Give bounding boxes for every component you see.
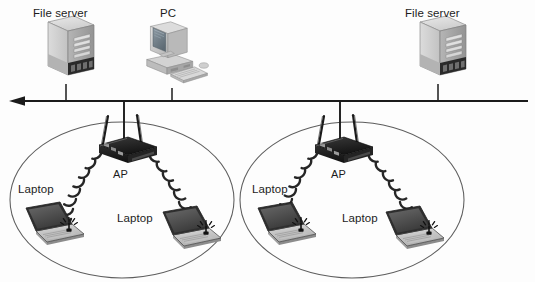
file-server-left-icon	[48, 16, 94, 75]
backbone-arrow-icon	[9, 96, 25, 106]
diagram-vector-layer	[0, 0, 535, 282]
label-pc: PC	[160, 8, 176, 20]
label-laptop-right-cell-2: Laptop	[342, 213, 378, 225]
label-laptop-right-cell-1: Laptop	[252, 184, 288, 196]
label-ap-right: AP	[331, 169, 346, 180]
label-ap-left: AP	[113, 169, 128, 180]
desktop-computer-icon	[147, 22, 209, 83]
network-diagram-canvas: File server PC File server AP Laptop Lap…	[0, 0, 535, 282]
ethernet-bus-backbone	[9, 96, 528, 106]
label-file-server-left: File server	[33, 8, 88, 20]
file-server-right-icon	[420, 16, 466, 75]
label-file-server-right: File server	[405, 8, 460, 20]
label-laptop-left-cell-1: Laptop	[18, 184, 54, 196]
label-laptop-left-cell-2: Laptop	[117, 213, 153, 225]
